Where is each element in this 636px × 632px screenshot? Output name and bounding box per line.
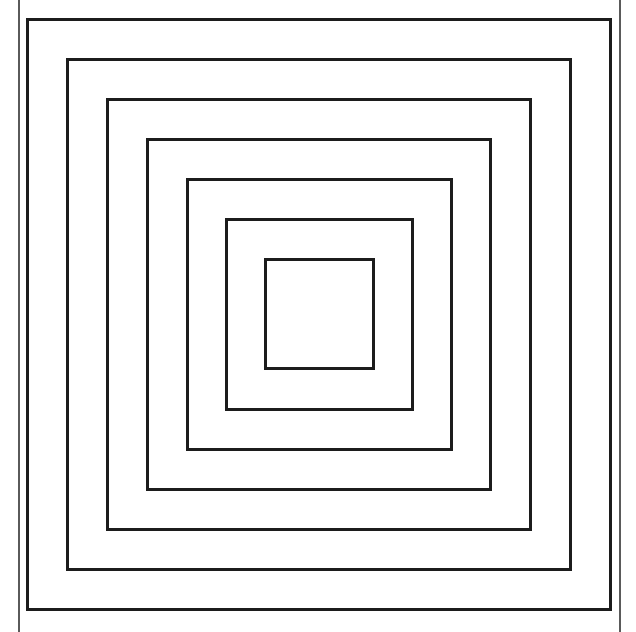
concentric-squares-diagram	[0, 0, 636, 632]
square-7-innermost	[264, 258, 375, 370]
right-border-line	[619, 0, 621, 632]
left-border-line	[18, 0, 20, 632]
